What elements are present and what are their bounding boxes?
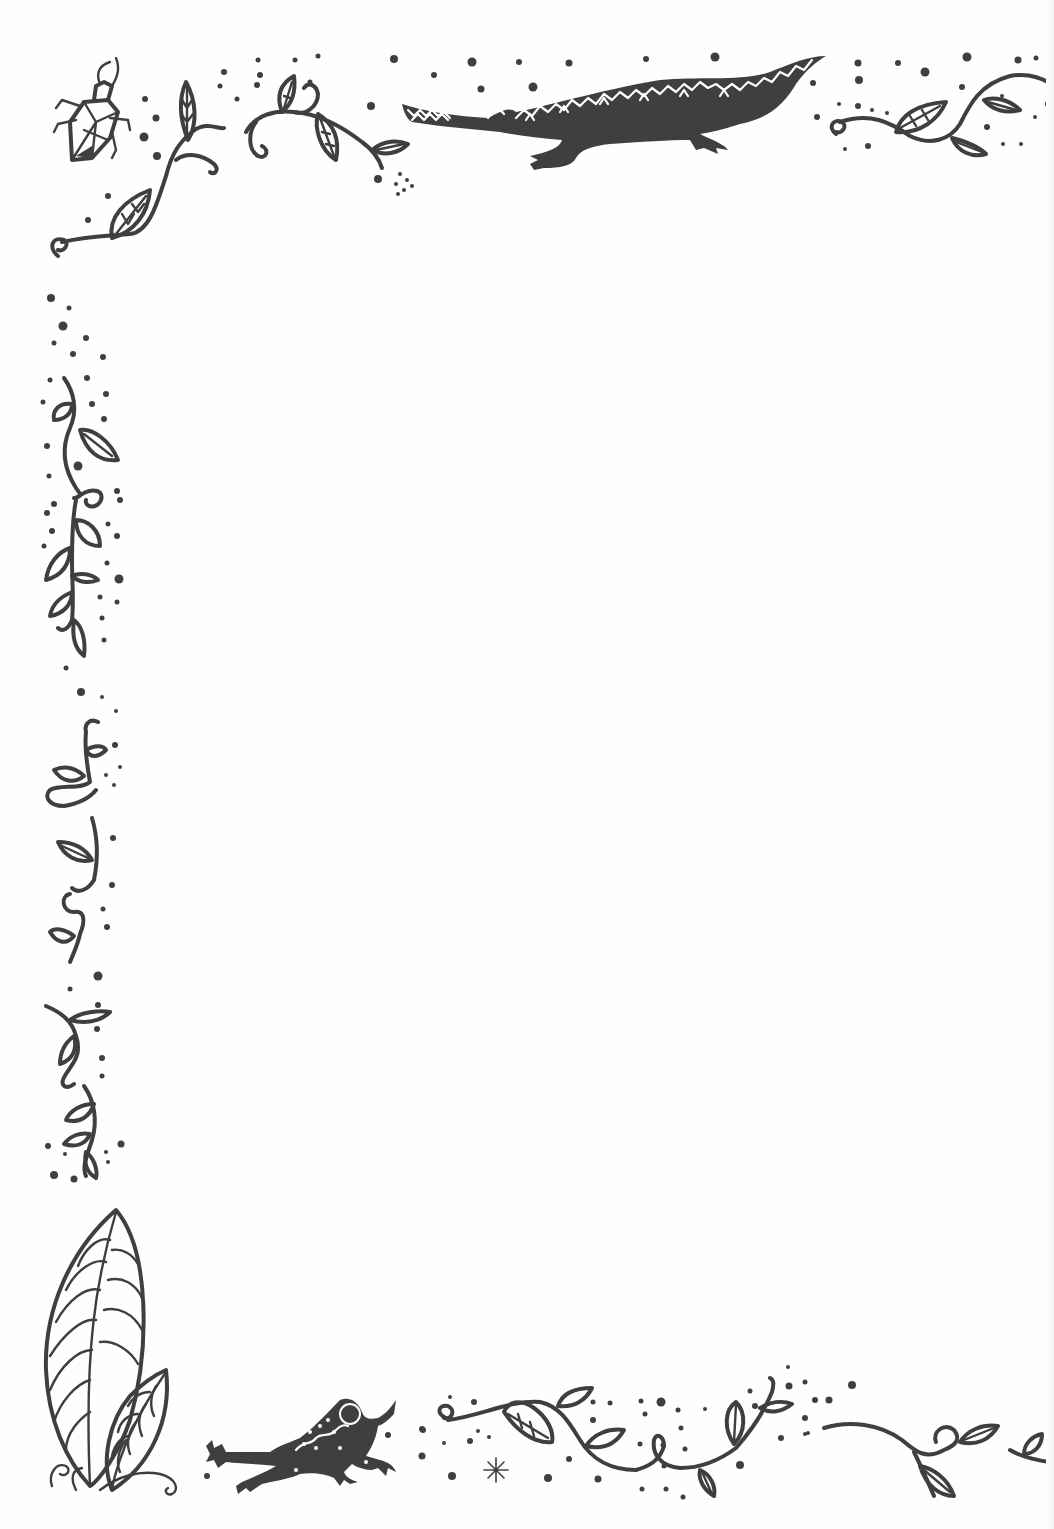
frog-icon xyxy=(206,1399,396,1494)
crocodile-icon xyxy=(402,56,826,170)
vine-left-lower xyxy=(46,721,110,1178)
vine-left-upper xyxy=(46,378,118,656)
scattered-dots xyxy=(41,53,1053,1500)
page-edge-shadow xyxy=(1046,0,1054,1529)
vine-bottom-center xyxy=(439,1378,792,1496)
decorative-border-art xyxy=(0,0,1054,1529)
vine-top-left xyxy=(52,76,408,256)
big-leaves-icon xyxy=(46,1210,176,1494)
snowflake-icon xyxy=(484,1458,508,1482)
border-page xyxy=(0,0,1054,1529)
beetle-icon xyxy=(54,58,130,160)
vine-bottom-right xyxy=(824,1424,1050,1496)
